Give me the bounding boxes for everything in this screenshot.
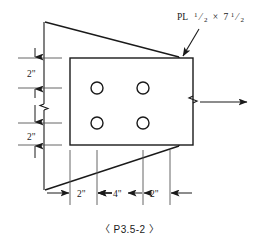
bolt-hole-top-left xyxy=(91,82,103,94)
horizontal-dimension-center: 4" xyxy=(113,189,122,199)
plate-thickness-numerator: 1 xyxy=(194,11,198,19)
plate-label-leader xyxy=(183,29,199,56)
vertical-dimension-top: 2" xyxy=(27,69,36,79)
horizontal-dimension-left: 2" xyxy=(77,189,86,199)
svg-text:PL 1 ⁄: PL 1 ⁄ 2 × 7 1 ⁄ 2 xyxy=(177,9,245,24)
figure-caption: 〈 P3.5-2 〉 xyxy=(100,224,159,235)
plate-width-denominator: 2 xyxy=(241,16,245,24)
bolt-hole-bottom-left xyxy=(91,117,103,129)
plate-thickness-denominator: 2 xyxy=(204,16,208,24)
plate-label-times: × xyxy=(213,12,218,22)
drawing-canvas: 2" 2" 2" 4" 2" xyxy=(0,0,259,246)
vertical-dimension-bottom: 2" xyxy=(27,132,36,142)
horizontal-dimension-right: 2" xyxy=(150,189,159,199)
engineering-drawing: 2" 2" 2" 4" 2" xyxy=(0,0,259,246)
plate-width-numerator: 1 xyxy=(231,11,235,19)
bolt-hole-bottom-right xyxy=(137,117,149,129)
connection-plate xyxy=(70,58,193,145)
plate-label-prefix: PL xyxy=(177,12,188,22)
gusset-plate-outline xyxy=(45,22,179,190)
vertical-extension-lines xyxy=(18,58,62,145)
bolt-hole-top-right xyxy=(137,82,149,94)
member-reference-line xyxy=(40,22,48,190)
bolt-hole-group xyxy=(91,82,149,129)
plate-width-whole: 7 xyxy=(224,12,229,22)
plate-label: PL 1 ⁄ 2 × 7 1 ⁄ 2 xyxy=(177,9,245,24)
